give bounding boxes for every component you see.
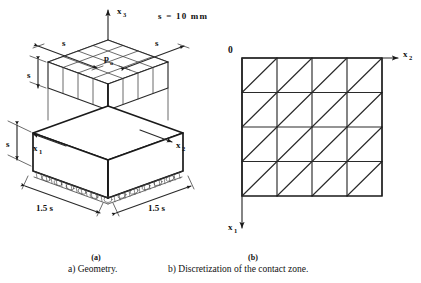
pressure-label-base: p: [104, 53, 109, 63]
axis-x2-mesh-subscript: 2: [409, 54, 412, 61]
caption-b-tag: (b): [248, 253, 258, 262]
panel-a-geometry: x 3: [6, 6, 194, 216]
captions: (a) a) Geometry. (b) b) Discretization o…: [68, 253, 308, 275]
axis-x1-mesh-subscript: 1: [234, 227, 237, 234]
axis-x2-geom-subscript: 2: [182, 145, 185, 152]
axis-x3-subscript: 3: [123, 11, 127, 18]
axis-x1-mesh: x 1: [228, 58, 242, 234]
dim-lh-ext-bot: [8, 155, 31, 166]
figure-svg: s = 10 mm x 3: [0, 0, 421, 283]
caption-a-text: a) Geometry.: [68, 264, 118, 275]
dimension-lower-height: s: [6, 121, 31, 166]
panel-b-discretization: 0: [228, 45, 412, 234]
dim-tl-label: s: [62, 38, 66, 48]
dim-lh-ext-top: [8, 121, 31, 132]
axis-x3-label: x: [117, 6, 122, 16]
caption-b-text: b) Discretization of the contact zone.: [168, 264, 308, 275]
axis-x2-geom-label: x: [176, 140, 181, 150]
dim-tr-label: s: [155, 38, 159, 48]
axis-x1-subscript: 1: [39, 148, 42, 155]
dim-lh-label: s: [6, 139, 10, 149]
origin-label: 0: [228, 45, 233, 55]
dim-bl-ext-2: [97, 203, 103, 216]
axis-x3: x 3: [108, 6, 127, 40]
dim-bl-label: 1.5 s: [36, 203, 54, 213]
figure-container: s = 10 mm x 3: [0, 0, 421, 283]
dim-br-ext-1: [113, 203, 119, 216]
axis-x1-mesh-label: x: [228, 222, 233, 232]
axis-x1-label: x: [33, 143, 38, 153]
dimension-upper-height: s: [27, 56, 46, 88]
dim-uh-label: s: [27, 70, 31, 80]
dim-br-label: 1.5 s: [148, 203, 166, 213]
scale-note: s = 10 mm: [158, 11, 208, 21]
scale-note-text: s = 10 mm: [158, 11, 208, 21]
axis-x2-mesh-label: x: [403, 49, 408, 59]
upper-block: p o: [48, 40, 168, 110]
caption-a-tag: (a): [91, 253, 101, 262]
pressure-label-subscript: o: [110, 59, 113, 66]
